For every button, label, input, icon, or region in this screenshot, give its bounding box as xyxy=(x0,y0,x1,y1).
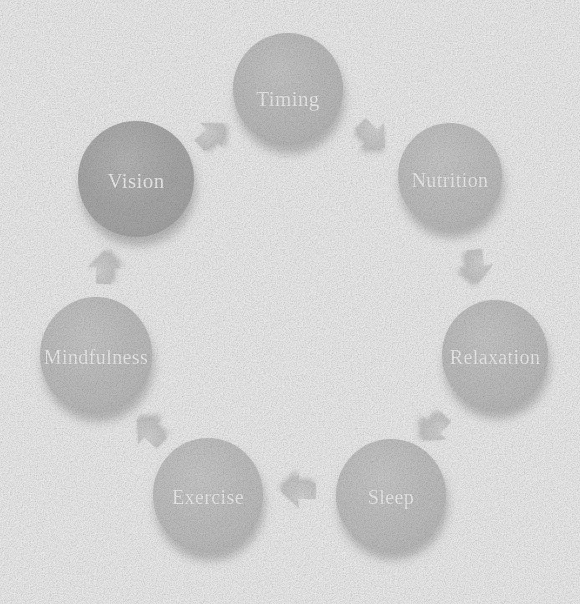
node-sleep[interactable] xyxy=(336,439,446,551)
node-relaxation[interactable] xyxy=(442,300,548,410)
node-nutrition[interactable] xyxy=(398,123,502,229)
node-exercise[interactable] xyxy=(153,438,263,552)
arrow-sleep-exercise-icon xyxy=(281,473,316,508)
arrow-exercise-mindfulness-icon xyxy=(125,407,174,456)
node-timing[interactable] xyxy=(233,33,343,145)
arrow-timing-nutrition-icon xyxy=(348,111,397,160)
diagram-canvas: TimingNutritionRelaxationSleepExerciseMi… xyxy=(0,0,580,604)
arrow-mindfulness-vision-icon xyxy=(87,250,122,285)
arrow-vision-timing-icon xyxy=(188,111,234,157)
node-layer xyxy=(40,33,548,552)
node-vision[interactable] xyxy=(78,121,194,237)
cycle-diagram xyxy=(0,0,580,604)
arrow-relaxation-sleep-icon xyxy=(411,405,457,451)
arrow-nutrition-relaxation-icon xyxy=(457,248,495,286)
node-mindfulness[interactable] xyxy=(40,297,152,413)
